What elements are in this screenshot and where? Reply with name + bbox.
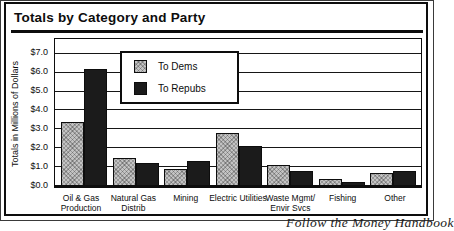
x-axis-category-label: Natural GasDistrib	[112, 193, 154, 213]
dems-swatch-icon	[134, 60, 147, 73]
bar-dems	[370, 173, 393, 185]
legend-item-repubs: To Repubs	[134, 82, 237, 95]
title-divider	[11, 30, 423, 33]
bar-group	[61, 69, 107, 185]
x-axis-category-label: Other	[374, 193, 416, 213]
y-tick-label: $7.0	[30, 47, 48, 57]
bar-dems	[267, 165, 290, 185]
repubs-swatch-icon	[134, 82, 147, 95]
legend-label-repubs: To Repubs	[158, 83, 206, 94]
bar-repubs	[84, 69, 107, 185]
bar-group	[113, 158, 159, 185]
bar-group	[267, 165, 313, 185]
bar-group	[319, 179, 365, 185]
bar-dems	[113, 158, 136, 185]
y-tick-label: $2.0	[30, 142, 48, 152]
x-axis-category-label: Waste Mgmt/Envir Svcs	[269, 193, 311, 213]
bar-dems	[61, 122, 84, 185]
legend-item-dems: To Dems	[134, 60, 237, 73]
x-axis-labels: Oil & GasProductionNatural GasDistribMin…	[60, 193, 416, 213]
x-axis-category-label: Electric Utilities	[217, 193, 259, 213]
bar-repubs	[187, 161, 210, 185]
caption-cropped: Follow the Money Handbook	[286, 215, 454, 231]
y-axis-ticks: $7.0$6.0$5.0$4.0$3.0$2.0$1.0$0.0	[6, 38, 51, 188]
y-tick-label: $0.0	[30, 180, 48, 190]
bar-group	[216, 133, 262, 185]
bar-dems	[164, 169, 187, 185]
bar-dems	[216, 133, 239, 185]
legend-box: To Dems To Repubs	[120, 51, 239, 104]
bar-repubs	[136, 163, 159, 185]
bar-dems	[319, 179, 342, 185]
y-tick-label: $3.0	[30, 123, 48, 133]
y-tick-label: $5.0	[30, 85, 48, 95]
bar-repubs	[393, 171, 416, 185]
y-tick-label: $4.0	[30, 104, 48, 114]
y-tick-label: $6.0	[30, 66, 48, 76]
x-axis-category-label: Fishing	[322, 193, 364, 213]
bar-group	[370, 171, 416, 185]
bar-group	[164, 161, 210, 185]
x-axis-category-label: Oil & GasProduction	[60, 193, 102, 213]
bar-repubs	[239, 146, 262, 185]
y-tick-label: $1.0	[30, 161, 48, 171]
legend-label-dems: To Dems	[158, 61, 197, 72]
bar-repubs	[342, 182, 365, 185]
chart-title: Totals by Category and Party	[14, 10, 205, 25]
x-axis-category-label: Mining	[165, 193, 207, 213]
bar-repubs	[290, 171, 313, 185]
figure-frame: Totals by Category and Party Totals in M…	[4, 2, 428, 216]
